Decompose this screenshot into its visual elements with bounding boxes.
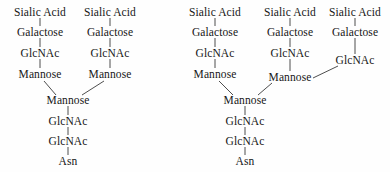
glycan-node: Sialic Acid: [189, 6, 241, 18]
glycan-node: GlcNAc: [271, 47, 310, 59]
glycan-node: Sialic Acid: [329, 6, 381, 18]
glycan-node: Galactose: [267, 26, 313, 38]
glycosidic-bond-edge: [82, 81, 104, 95]
glycan-structures-figure: Sialic AcidGalactoseGlcNAcMannoseSialic …: [0, 0, 390, 172]
glycan-node: Mannose: [47, 94, 90, 106]
glycan-node: Sialic Acid: [84, 6, 136, 18]
diagram-canvas: Sialic AcidGalactoseGlcNAcMannoseSialic …: [0, 0, 390, 172]
glycosidic-bond-edge: [44, 81, 56, 95]
glycan-node: GlcNAc: [49, 135, 88, 147]
glycan-node: Sialic Acid: [264, 6, 316, 18]
glycan-node: Galactose: [332, 26, 378, 38]
glycan-node: GlcNAc: [49, 115, 88, 127]
glycan-node: Asn: [59, 155, 78, 167]
glycan-node: GlcNAc: [21, 47, 60, 59]
glycan-node: Galactose: [192, 26, 238, 38]
glycosidic-bond-edge: [313, 66, 338, 78]
glycan-node: Mannose: [19, 68, 62, 80]
glycan-node: GlcNAc: [336, 54, 375, 66]
glycan-node: Sialic Acid: [14, 6, 66, 18]
glycan-node: GlcNAc: [196, 47, 235, 59]
glycosidic-bond-edge: [219, 81, 233, 95]
glycan-node: Galactose: [87, 26, 133, 38]
glycan-node: Asn: [236, 155, 255, 167]
glycan-node: GlcNAc: [91, 47, 130, 59]
glycan-node: Mannose: [269, 71, 312, 83]
glycan-node: GlcNAc: [226, 135, 265, 147]
glycan-node: Galactose: [17, 26, 63, 38]
glycan-node: Mannose: [194, 68, 237, 80]
glycan-node: Mannose: [89, 68, 132, 80]
glycan-node: GlcNAc: [226, 115, 265, 127]
glycan-node: Mannose: [224, 94, 267, 106]
